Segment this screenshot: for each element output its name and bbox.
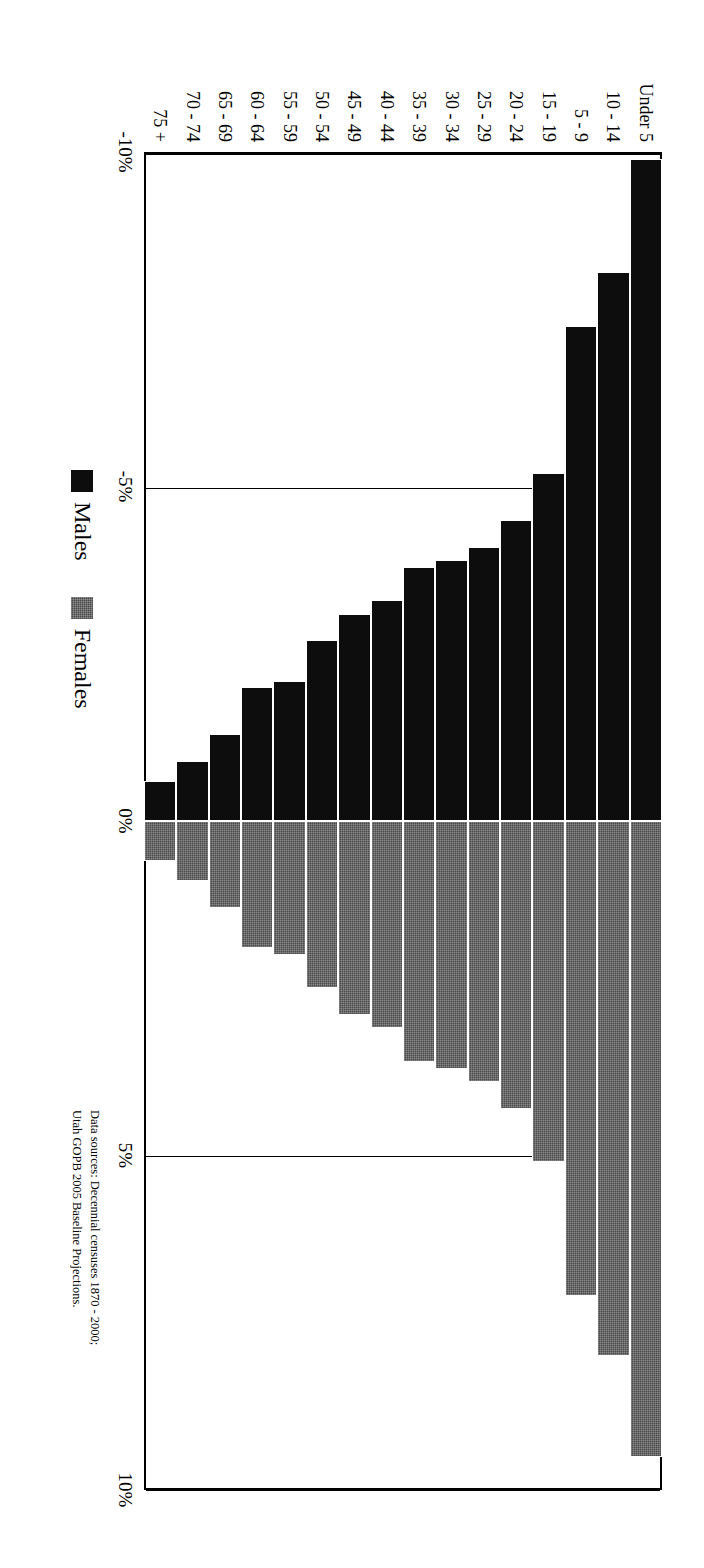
- source-note: Data sources: Decennial censuses 1870 - …: [68, 1110, 104, 1345]
- value-tick-label: 0%: [114, 808, 136, 833]
- category-label: 40 - 44: [378, 91, 396, 142]
- legend-swatch-females-icon: [72, 597, 94, 619]
- bar-male: [241, 687, 273, 821]
- category-label: 25 - 29: [475, 91, 493, 142]
- category-label: Under 5: [637, 84, 655, 142]
- bar-male: [209, 734, 241, 821]
- category-label: 55 - 59: [281, 91, 299, 142]
- bar-female: [597, 821, 629, 1356]
- bar-row: [435, 152, 467, 1490]
- bar-row: [533, 152, 565, 1490]
- source-note-line-2: Utah GOPB 2005 Baseline Projections.: [68, 1110, 86, 1345]
- legend-swatch-males-icon: [72, 470, 94, 492]
- bar-male: [403, 567, 435, 821]
- category-label: 35 - 39: [410, 91, 428, 142]
- bar-male: [144, 781, 176, 821]
- population-pyramid-figure: Under 510 - 145 - 915 - 1920 - 2425 - 29…: [0, 0, 704, 1568]
- category-label: 45 - 49: [345, 91, 363, 142]
- category-label: 20 - 24: [507, 91, 525, 142]
- bar-male: [597, 272, 629, 821]
- bar-female: [241, 821, 273, 948]
- bar-female: [306, 821, 338, 988]
- bar-row: [500, 152, 532, 1490]
- bar-female: [176, 821, 208, 881]
- bar-female: [371, 821, 403, 1028]
- bar-female: [274, 821, 306, 955]
- bar-female: [338, 821, 370, 1015]
- bar-female: [468, 821, 500, 1082]
- bar-female: [403, 821, 435, 1062]
- gridline-10-percent: [146, 1490, 660, 1491]
- bar-male: [565, 326, 597, 821]
- bar-male: [176, 761, 208, 821]
- bar-row: [565, 152, 597, 1490]
- legend-label-males: Males: [69, 502, 96, 561]
- value-tick-label: -5%: [114, 471, 136, 503]
- bar-male: [500, 520, 532, 821]
- category-label: 5 - 9: [572, 109, 590, 142]
- value-tick-label: -10%: [114, 131, 136, 172]
- bar-row: [274, 152, 306, 1490]
- bar-female: [209, 821, 241, 908]
- bar-row: [176, 152, 208, 1490]
- category-label: 30 - 34: [443, 91, 461, 142]
- legend-label-females: Females: [69, 629, 96, 709]
- category-label: 75 +: [151, 109, 169, 142]
- legend-item-females: Females: [69, 597, 96, 709]
- bar-row: [468, 152, 500, 1490]
- bar-female: [565, 821, 597, 1296]
- category-label: 15 - 19: [540, 91, 558, 142]
- value-tick-label: 5%: [114, 1143, 136, 1168]
- bar-row: [403, 152, 435, 1490]
- bar-row: [306, 152, 338, 1490]
- bar-female: [500, 821, 532, 1109]
- bar-female: [630, 821, 662, 1457]
- category-label: 60 - 64: [248, 91, 266, 142]
- bar-row: [144, 152, 176, 1490]
- bar-row: [209, 152, 241, 1490]
- bar-male: [435, 560, 467, 821]
- bar-female: [435, 821, 467, 1069]
- bar-female: [533, 821, 565, 1162]
- bar-row: [371, 152, 403, 1490]
- category-label: 50 - 54: [313, 91, 331, 142]
- category-label: 70 - 74: [184, 91, 202, 142]
- category-label: 10 - 14: [604, 91, 622, 142]
- value-tick-label: 10%: [114, 1473, 136, 1508]
- bar-row: [597, 152, 629, 1490]
- bar-row: [630, 152, 662, 1490]
- bar-female: [144, 821, 176, 861]
- bar-row: [241, 152, 273, 1490]
- bars-layer: [144, 152, 662, 1490]
- category-label: 65 - 69: [216, 91, 234, 142]
- legend-item-males: Males: [69, 470, 96, 561]
- bar-male: [630, 159, 662, 821]
- bar-male: [306, 640, 338, 821]
- bar-male: [468, 547, 500, 821]
- bar-male: [533, 473, 565, 821]
- bar-male: [338, 614, 370, 821]
- bar-male: [371, 600, 403, 821]
- bar-male: [274, 681, 306, 821]
- source-note-line-1: Data sources: Decennial censuses 1870 - …: [86, 1110, 104, 1345]
- bar-row: [338, 152, 370, 1490]
- chart-legend: Males Females: [69, 470, 96, 709]
